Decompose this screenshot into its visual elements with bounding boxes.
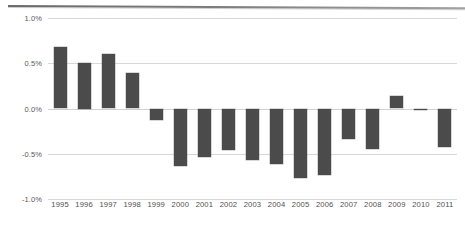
x-axis-tick-label: 2007	[340, 200, 358, 209]
y-axis-tick-label: -1.0%	[22, 195, 42, 204]
bar	[198, 109, 211, 158]
bar	[174, 109, 187, 166]
y-axis-tick-label: 0.5%	[25, 59, 43, 68]
x-axis-tick-label: 1995	[51, 200, 69, 209]
bar	[126, 73, 139, 108]
x-axis-tick-label: 2001	[196, 200, 214, 209]
x-axis-tick-label: 1997	[99, 200, 117, 209]
x-axis-tick-label: 2000	[172, 200, 190, 209]
x-axis-tick-label: 2010	[412, 200, 430, 209]
y-axis-tick-label: 1.0%	[25, 14, 43, 23]
x-axis-tick-label: 1998	[123, 200, 141, 209]
bar	[318, 109, 331, 175]
bar	[150, 109, 163, 121]
bar	[390, 96, 403, 109]
bar	[246, 109, 259, 161]
bar	[366, 109, 379, 150]
x-axis-tick-label: 2011	[437, 200, 454, 209]
y-axis-tick-label: 0.0%	[25, 104, 43, 113]
chart-page: 1.0%0.5%0.0%-0.5%-1.0% 19951996199719981…	[0, 0, 465, 226]
x-axis-tick-label: 1996	[75, 200, 93, 209]
x-axis-tick-label: 2005	[292, 200, 310, 209]
x-axis-tick-labels: 1995199619971998199920002001200220032004…	[48, 200, 457, 218]
x-axis-tick-label: 2008	[364, 200, 382, 209]
x-axis-tick-label: 2009	[388, 200, 406, 209]
bar	[222, 109, 235, 151]
bar-series	[48, 18, 457, 199]
plot-area: 1.0%0.5%0.0%-0.5%-1.0%	[48, 18, 457, 199]
bar	[270, 109, 283, 164]
x-axis-tick-label: 2003	[244, 200, 262, 209]
bar	[54, 47, 67, 109]
bar	[438, 109, 451, 147]
x-axis-tick-label: 2002	[220, 200, 238, 209]
x-axis-tick-label: 1999	[148, 200, 166, 209]
bar	[294, 109, 307, 179]
x-axis-tick-label: 2006	[316, 200, 334, 209]
bar	[78, 63, 91, 108]
y-axis-tick-label: -0.5%	[22, 149, 42, 158]
x-axis-tick-label: 2004	[268, 200, 286, 209]
bar	[414, 109, 427, 111]
bar	[102, 54, 115, 108]
bar	[342, 109, 355, 140]
